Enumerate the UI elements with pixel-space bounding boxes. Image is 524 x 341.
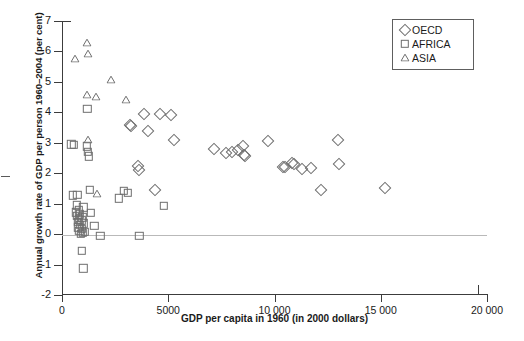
data-point-oecd [285,156,298,169]
data-point-asia [83,50,92,58]
data-point-oecd [277,160,290,173]
data-point-oecd [219,147,232,160]
data-point-africa [83,142,91,150]
x-tick [168,294,169,302]
data-point-africa [85,152,93,160]
y-tick [54,265,62,266]
data-point-oecd [287,158,300,171]
y-tick [54,82,62,83]
data-point-asia [83,39,92,47]
y-tick [54,295,62,296]
data-point-africa [124,189,132,197]
y-axis-line [62,21,63,295]
data-point-oecd [232,144,245,157]
legend-item-asia[interactable]: ASIA [398,51,468,65]
y-tick [54,21,62,22]
data-point-africa [69,191,77,199]
data-point-africa [75,221,83,229]
data-point-oecd [133,164,146,177]
diamond-icon [398,24,411,36]
data-point-africa [73,190,81,198]
data-point-oecd [315,184,328,197]
legend-item-africa[interactable]: AFRICA [398,37,468,51]
data-point-africa [74,223,82,231]
data-point-oecd [142,124,155,137]
data-point-oecd [379,182,392,195]
y-tick-label: 4 [28,105,51,117]
data-point-oecd [208,142,221,155]
y-tick [54,112,62,113]
y-tick-label: 6 [28,44,51,56]
legend-item-oecd[interactable]: OECD [398,23,468,37]
data-point-oecd [124,120,137,133]
data-point-africa [76,210,84,218]
chart-legend: OECDAFRICAASIA [392,19,474,70]
y-tick-label: -2 [28,288,51,300]
data-point-africa [75,206,83,214]
square-icon [398,38,411,50]
y-tick [54,204,62,205]
y-tick-label: 0 [28,227,51,239]
triangle-icon [398,52,411,64]
data-point-africa [78,213,86,221]
data-point-africa [71,208,79,216]
x-tick [487,294,488,302]
data-point-africa [119,187,127,195]
data-point-oecd [165,109,178,122]
x-tick [381,294,382,302]
x-axis-title: GDP per capita in 1960 (in 2000 dollars) [62,313,487,324]
data-point-oecd [279,161,292,174]
data-point-africa [79,264,87,272]
data-point-africa [77,216,85,224]
data-point-oecd [238,150,251,163]
data-point-asia [92,92,101,100]
zero-reference-line [62,235,487,236]
data-point-asia [121,95,130,103]
data-point-africa [70,141,78,149]
data-point-asia [83,135,92,143]
data-point-oecd [167,133,180,146]
data-point-africa [78,224,86,232]
x-axis-right-cap [478,285,479,295]
data-point-africa [74,218,82,226]
data-point-africa [67,140,75,148]
legend-label: ASIA [412,52,436,64]
data-point-oecd [237,139,250,152]
y-tick [54,234,62,235]
y-tick-label: 3 [28,136,51,148]
data-point-oecd [304,161,317,174]
data-point-africa [84,148,92,156]
data-point-africa [96,231,104,239]
y-tick [54,143,62,144]
x-tick [275,294,276,302]
data-point-africa [160,202,168,210]
data-point-asia [83,90,92,98]
data-point-oecd [262,135,275,148]
data-point-oecd [153,107,166,120]
data-point-africa [73,201,81,209]
y-tick-label: 5 [28,75,51,87]
data-point-oecd [296,162,309,175]
legend-label: OECD [412,24,442,36]
data-point-oecd [123,118,136,131]
data-point-africa [87,209,95,217]
data-point-africa [75,215,83,223]
data-point-oecd [138,107,151,120]
y-axis-top-cap [62,21,71,22]
data-point-africa [78,247,86,255]
data-point-asia [70,55,79,63]
y-tick [54,173,62,174]
y-tick [54,51,62,52]
y-tick-label: 1 [28,197,51,209]
data-point-oecd [149,184,162,197]
left-edge-tick-mark [1,176,10,177]
scatter-chart-figure: Annual growth rate of GDP per person 196… [0,0,524,341]
data-point-africa [76,229,84,237]
data-point-africa [135,231,143,239]
data-point-oecd [226,146,239,159]
data-point-africa [73,212,81,220]
data-point-africa [86,186,94,194]
data-point-africa [90,221,98,229]
y-tick-label: 7 [28,14,51,26]
data-point-oecd [238,149,251,162]
